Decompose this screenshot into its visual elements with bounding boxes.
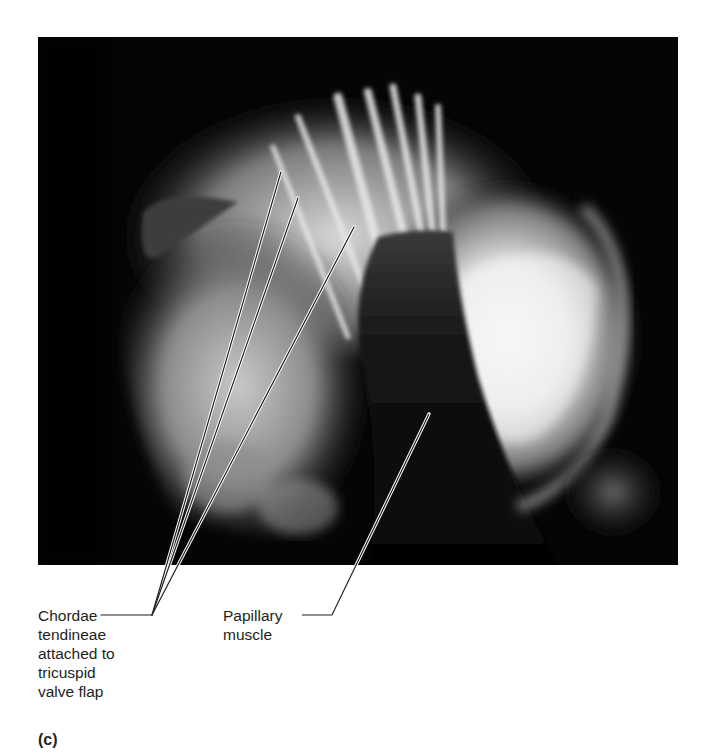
papillary-muscle-label: Papillary muscle — [223, 606, 282, 644]
chordae-label-line-3: attached to — [38, 644, 115, 663]
chordae-label-line-1: Chordae — [38, 606, 115, 625]
chordae-label-line-5: valve flap — [38, 682, 115, 701]
anatomy-figure: Chordae tendineae attached to tricuspid … — [0, 0, 718, 756]
panel-letter: (c) — [38, 731, 58, 749]
chordae-label-line-2: tendineae — [38, 625, 115, 644]
chordae-tendineae-label: Chordae tendineae attached to tricuspid … — [38, 606, 115, 701]
photo-rendering — [38, 37, 678, 565]
papillary-label-line-1: Papillary — [223, 606, 282, 625]
ventricle-photo — [38, 37, 678, 565]
chordae-label-line-4: tricuspid — [38, 663, 115, 682]
papillary-label-line-2: muscle — [223, 625, 282, 644]
